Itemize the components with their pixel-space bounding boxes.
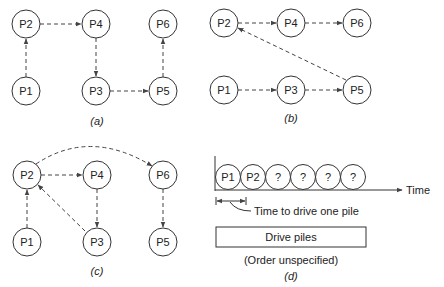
node-a-p1: P1	[12, 77, 40, 105]
pile-3: ?	[266, 165, 291, 190]
node-b-p4: P4	[277, 9, 305, 37]
node-b-p3: P3	[277, 76, 305, 104]
pile-1: P1	[216, 165, 241, 190]
svg-text:P5: P5	[156, 236, 169, 248]
node-b-p5: P5	[343, 76, 371, 104]
node-c-p5: P5	[149, 228, 177, 256]
svg-text:P6: P6	[156, 18, 169, 30]
svg-text:P2: P2	[20, 169, 33, 181]
pile-2: P2	[241, 165, 266, 190]
pile-driving-diagram: P1P2P3P4P5P6P1P2P3P4P5P6P1P2P3P4P5P6 (a)…	[0, 0, 444, 287]
pile-4: ?	[291, 165, 316, 190]
node-b-p1: P1	[210, 76, 238, 104]
svg-text:P3: P3	[284, 84, 297, 96]
caption-b: (b)	[284, 112, 298, 124]
svg-text:P1: P1	[20, 236, 33, 248]
svg-text:?: ?	[300, 171, 306, 183]
svg-text:P4: P4	[284, 17, 297, 29]
svg-text:P3: P3	[89, 85, 102, 97]
caption-c: (c)	[91, 265, 104, 277]
node-c-p4: P4	[83, 161, 111, 189]
svg-text:P1: P1	[221, 171, 234, 183]
svg-text:P4: P4	[90, 169, 103, 181]
svg-text:P3: P3	[90, 236, 103, 248]
node-c-p6: P6	[149, 161, 177, 189]
pile-5: ?	[316, 165, 341, 190]
svg-text:P4: P4	[89, 18, 102, 30]
node-a-p5: P5	[149, 77, 177, 105]
svg-text:P2: P2	[246, 171, 259, 183]
svg-text:P6: P6	[350, 17, 363, 29]
svg-text:P6: P6	[156, 169, 169, 181]
order-note: (Order unspecified)	[244, 254, 338, 266]
svg-text:?: ?	[325, 171, 331, 183]
node-b-p2: P2	[210, 9, 238, 37]
node-c-p3: P3	[83, 228, 111, 256]
svg-text:P5: P5	[350, 84, 363, 96]
svg-text:P1: P1	[19, 85, 32, 97]
time-axis-label: Time	[406, 184, 430, 196]
svg-text:P2: P2	[217, 17, 230, 29]
pile-sequence: P1P2????	[216, 165, 366, 190]
node-a-p3: P3	[82, 77, 110, 105]
dimension-leader	[230, 202, 251, 211]
caption-d: (d)	[284, 270, 298, 282]
caption-a: (a)	[90, 115, 104, 127]
svg-text:P2: P2	[19, 18, 32, 30]
svg-text:?: ?	[275, 171, 281, 183]
svg-text:?: ?	[350, 171, 356, 183]
dimension-label: Time to drive one pile	[254, 205, 359, 217]
node-a-p2: P2	[12, 10, 40, 38]
edge-c-p3-p2	[38, 185, 85, 231]
pile-6: ?	[341, 165, 366, 190]
node-a-p6: P6	[149, 10, 177, 38]
node-c-p1: P1	[13, 228, 41, 256]
node-a-p4: P4	[82, 10, 110, 38]
node-c-p2: P2	[13, 161, 41, 189]
drive-piles-label: Drive piles	[265, 231, 317, 243]
panel-d: Time P1P2???? Time to drive one pile Dri…	[215, 156, 430, 282]
node-b-p6: P6	[343, 9, 371, 37]
svg-text:P1: P1	[217, 84, 230, 96]
nodes-layer: P1P2P3P4P5P6P1P2P3P4P5P6P1P2P3P4P5P6	[12, 9, 371, 256]
svg-text:P5: P5	[156, 85, 169, 97]
